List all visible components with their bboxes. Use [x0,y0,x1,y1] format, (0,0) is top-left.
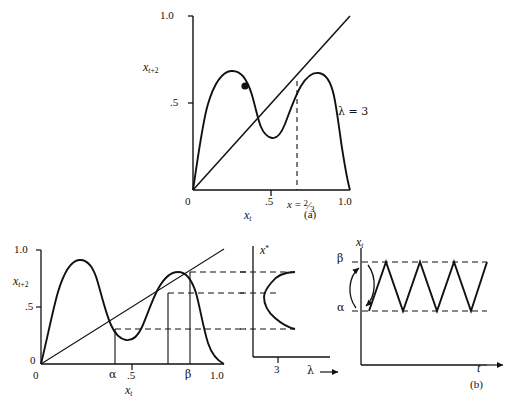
panel-bl-y-axis-label: xt+2 [13,271,28,289]
panel-a-xtick-label-1: 1.0 [338,195,352,207]
panel-a-xtick-label-0: 0 [185,195,191,207]
panel-bl-ytick-label-0: 0 [30,354,36,366]
panel-a-y-axis-label: xt+2 [143,57,158,75]
panel-a [188,16,350,196]
panel-bl-xtick-label-beta: β [185,368,191,381]
panel-bl-x-axis-label: xt [125,380,132,398]
panel-bl-xtick-label-0: 0 [33,369,39,381]
panel-bm-y-axis-label: x* [260,240,269,258]
panel-b-left [36,249,246,370]
panel-br-alpha-to-beta-arrow [350,268,359,308]
panel-bl-xtick-label-1: 1.0 [210,369,224,381]
panel-a-ytick-label-1: 1.0 [160,9,174,21]
panel-br-x-axis-label: t [477,358,480,376]
panel-b-caption: (b) [470,378,483,390]
panel-a-caption: (a) [304,208,316,220]
panel-bl-ytick-label-1: 1.0 [14,243,28,255]
panel-br-beta-label: β [337,252,343,265]
panel-br-y-axis-label: xt [356,232,363,250]
panel-bm-bifurcation-curve [264,272,295,329]
panel-b-right [350,248,503,365]
panel-a-dot-marker [241,82,248,89]
panel-b-middle [240,246,330,363]
figure-canvas [0,0,518,401]
panel-a-curve-f2 [193,71,350,190]
panel-bl-xtick-label-alpha: α [109,368,116,381]
panel-a-diagonal [193,16,350,190]
panel-bm-x-axis-label: λ [307,364,314,377]
panel-bl-ytick-label-half: .5 [25,300,33,312]
panel-br-alpha-label: α [337,301,344,314]
panel-br-zigzag [369,262,487,311]
panel-a-xtick-label-half: .5 [265,195,273,207]
panel-bl-curve-f2 [41,260,224,364]
panel-a-ytick-label-half: .5 [170,96,178,108]
panel-bm-xtick-label-3: 3 [274,363,280,375]
panel-a-x-axis-label: xt [244,205,251,223]
panel-a-lambda-annotation: λ = 3 [338,105,368,118]
